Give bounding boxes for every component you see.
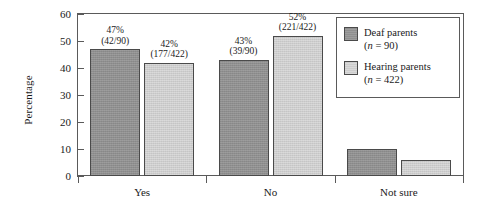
x-axis-category-label: No — [264, 186, 277, 198]
bar-value-fraction: (221/422) — [279, 22, 316, 33]
bar-value-percent: 43% — [230, 36, 258, 47]
x-axis-category-label: Not sure — [380, 186, 418, 198]
bar-chart-figure: Percentage 0102030405060 47%(42/90)42%(1… — [0, 0, 479, 211]
bar-no-deaf-parents — [219, 60, 269, 176]
legend-swatch-deaf-parents — [344, 27, 358, 41]
bar-not-sure-deaf-parents — [347, 149, 397, 176]
y-axis-tick-label: 10 — [31, 144, 71, 155]
y-axis-tick-label: 40 — [31, 63, 71, 74]
bar-value-label: 43%(39/90) — [230, 36, 258, 57]
y-axis-tick-label: 0 — [31, 171, 71, 182]
x-axis-category-label: Yes — [134, 186, 150, 198]
x-axis-tick-mark — [206, 176, 207, 183]
legend-label: Hearing parents(n = 422) — [364, 60, 431, 86]
x-axis-tick-mark — [335, 176, 336, 183]
bar-no-hearing-parents — [273, 36, 323, 176]
legend-swatch-hearing-parents — [344, 61, 358, 75]
y-axis-tick-mark — [77, 122, 84, 123]
bar-value-label: 52%(221/422) — [279, 12, 316, 33]
chart-legend: Deaf parents(n = 90)Hearing parents(n = … — [336, 17, 460, 98]
legend-entry-hearing-parents: Hearing parents(n = 422) — [344, 60, 431, 86]
y-axis-tick-label: 30 — [31, 90, 71, 101]
bar-value-fraction: (177/422) — [150, 49, 187, 60]
legend-series-name: Hearing parents — [364, 61, 431, 72]
y-axis-tick-mark — [77, 149, 84, 150]
bar-value-percent: 47% — [101, 25, 129, 36]
y-axis-tick-mark — [77, 41, 84, 42]
bar-value-fraction: (42/90) — [101, 36, 129, 47]
legend-series-name: Deaf parents — [364, 27, 417, 38]
bar-value-percent: 42% — [150, 39, 187, 50]
x-axis-tick-mark — [463, 176, 464, 183]
y-axis-tick-mark — [77, 68, 84, 69]
x-axis-tick-mark — [78, 176, 79, 183]
bar-value-percent: 52% — [279, 12, 316, 23]
y-axis-tick-mark — [77, 14, 84, 15]
y-axis-tick-labels: 0102030405060 — [26, 0, 71, 211]
y-axis-tick-mark — [77, 95, 84, 96]
bar-yes-deaf-parents — [90, 49, 140, 176]
y-axis-tick-label: 60 — [31, 9, 71, 20]
bar-not-sure-hearing-parents — [401, 160, 451, 176]
legend-entry-deaf-parents: Deaf parents(n = 90) — [344, 26, 417, 52]
legend-series-n: (n = 90) — [364, 39, 417, 52]
bar-value-label: 47%(42/90) — [101, 25, 129, 46]
legend-series-n: (n = 422) — [364, 73, 431, 86]
y-axis-tick-mark — [77, 176, 84, 177]
bar-value-label: 42%(177/422) — [150, 39, 187, 60]
y-axis-tick-label: 50 — [31, 36, 71, 47]
legend-label: Deaf parents(n = 90) — [364, 26, 417, 52]
bar-yes-hearing-parents — [144, 63, 194, 176]
y-axis-tick-label: 20 — [31, 117, 71, 128]
bar-value-fraction: (39/90) — [230, 46, 258, 57]
